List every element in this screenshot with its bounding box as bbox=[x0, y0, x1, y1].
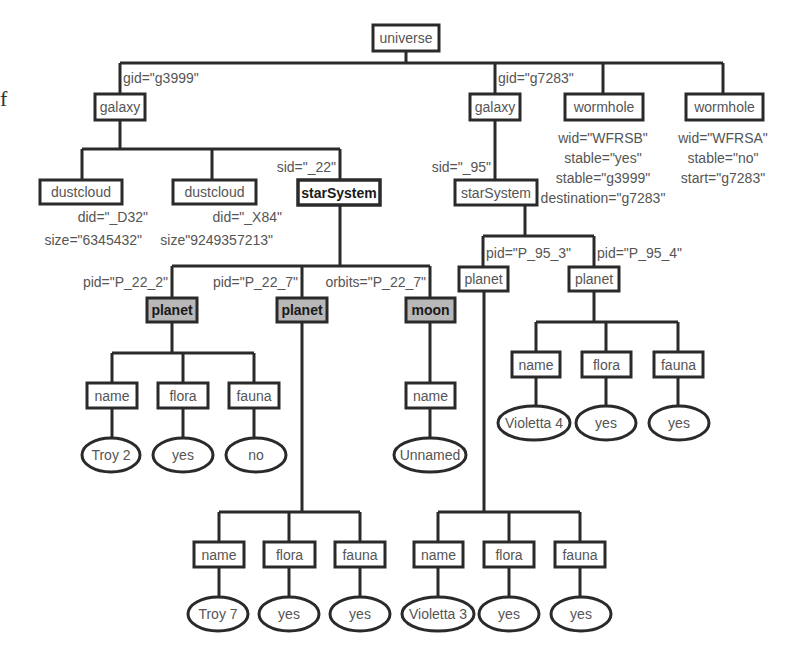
attribute-starSystem1: sid="_22" bbox=[277, 159, 336, 175]
attribute-dustcloud2: did="_X84" bbox=[213, 209, 283, 225]
node-label: Troy 2 bbox=[91, 447, 130, 463]
attribute-wormhole1: stable="yes" bbox=[564, 150, 641, 166]
node-moon: moon bbox=[406, 298, 455, 322]
node-dustcloud1: dustcloud bbox=[40, 180, 122, 204]
node-p4_flora: flora bbox=[582, 352, 631, 377]
tree-nodes: universegalaxygalaxywormholewormholedust… bbox=[40, 25, 763, 631]
node-p2_name: name bbox=[194, 542, 244, 567]
node-p1_name_v: Troy 2 bbox=[82, 438, 140, 472]
node-starSystem1: starSystem bbox=[298, 180, 380, 205]
node-label: yes bbox=[278, 606, 300, 622]
node-label: flora bbox=[495, 547, 522, 563]
node-label: wormhole bbox=[693, 99, 755, 115]
attribute-galaxy2: gid="g7283" bbox=[498, 70, 574, 86]
node-wormhole1: wormhole bbox=[565, 94, 643, 120]
attribute-galaxy1: gid="g3999" bbox=[123, 70, 199, 86]
xml-tree-diagram: universegalaxygalaxywormholewormholedust… bbox=[0, 0, 798, 664]
node-label: no bbox=[248, 447, 264, 463]
node-label: Troy 7 bbox=[198, 606, 237, 622]
node-galaxy1: galaxy bbox=[95, 94, 145, 120]
node-p3_flora: flora bbox=[484, 542, 534, 567]
node-universe: universe bbox=[373, 25, 439, 51]
attribute-moon: orbits="P_22_7" bbox=[325, 274, 426, 290]
node-m_name_v: Unnamed bbox=[394, 438, 466, 472]
node-p2_fauna: fauna bbox=[335, 542, 385, 567]
node-p4_name: name bbox=[512, 352, 560, 377]
node-planet2: planet bbox=[277, 298, 327, 322]
node-p3_fauna_v: yes bbox=[551, 597, 611, 631]
node-label: flora bbox=[169, 388, 196, 404]
node-label: galaxy bbox=[100, 99, 140, 115]
node-label: flora bbox=[276, 547, 303, 563]
attribute-dustcloud1: did="_D32" bbox=[78, 209, 148, 225]
node-label: wormhole bbox=[573, 99, 635, 115]
node-label: starSystem bbox=[461, 185, 531, 201]
node-p2_flora_v: yes bbox=[259, 597, 319, 631]
attribute-starSystem2: sid="_95" bbox=[432, 159, 491, 175]
attribute-planet1: pid="P_22_2" bbox=[83, 274, 168, 290]
node-label: name bbox=[413, 388, 448, 404]
node-p4_fauna_v: yes bbox=[649, 406, 709, 440]
attribute-wormhole2: wid="WFRSA" bbox=[677, 130, 768, 146]
attribute-wormhole1: stable="g3999" bbox=[556, 170, 650, 186]
node-label: starSystem bbox=[301, 185, 377, 201]
node-label: yes bbox=[668, 415, 690, 431]
node-label: yes bbox=[172, 447, 194, 463]
node-label: yes bbox=[595, 415, 617, 431]
node-label: moon bbox=[411, 302, 449, 318]
node-label: name bbox=[518, 357, 553, 373]
node-p3_fauna: fauna bbox=[555, 542, 605, 567]
node-label: planet bbox=[575, 271, 613, 287]
node-label: name bbox=[201, 547, 236, 563]
node-dustcloud2: dustcloud bbox=[173, 180, 256, 204]
attribute-planet2: pid="P_22_7" bbox=[213, 274, 298, 290]
attribute-planet3: pid="P_95_3" bbox=[486, 245, 571, 261]
attribute-dustcloud1: size="6345432" bbox=[44, 232, 142, 248]
node-label: planet bbox=[281, 302, 323, 318]
node-galaxy2: galaxy bbox=[470, 94, 520, 120]
attribute-wormhole1: destination="g7283" bbox=[541, 190, 666, 206]
node-label: planet bbox=[151, 302, 193, 318]
node-label: flora bbox=[593, 357, 620, 373]
node-label: universe bbox=[380, 30, 433, 46]
node-label: Violetta 4 bbox=[505, 415, 563, 431]
node-label: fauna bbox=[236, 388, 271, 404]
node-label: yes bbox=[349, 606, 371, 622]
attribute-wormhole2: stable="no" bbox=[687, 150, 758, 166]
node-planet1: planet bbox=[147, 298, 197, 322]
node-label: yes bbox=[570, 606, 592, 622]
node-p4_name_v: Violetta 4 bbox=[498, 406, 570, 440]
node-p1_fauna: fauna bbox=[229, 383, 279, 408]
attribute-planet4: pid="P_95_4" bbox=[597, 245, 682, 261]
node-label: Violetta 3 bbox=[409, 606, 467, 622]
node-p1_flora_v: yes bbox=[153, 438, 213, 472]
node-m_name: name bbox=[406, 383, 455, 408]
node-planet4: planet bbox=[569, 267, 619, 291]
node-wormhole2: wormhole bbox=[686, 94, 763, 120]
node-label: yes bbox=[498, 606, 520, 622]
node-label: name bbox=[421, 547, 456, 563]
node-p1_fauna_v: no bbox=[226, 438, 286, 472]
node-p1_name: name bbox=[87, 383, 137, 408]
node-p2_flora: flora bbox=[264, 542, 315, 567]
attribute-dustcloud2: size"9249357213" bbox=[160, 232, 273, 248]
node-label: name bbox=[94, 388, 129, 404]
attribute-labels: gid="g3999"gid="g7283"wid="WFRSB"stable=… bbox=[44, 70, 767, 290]
node-label: dustcloud bbox=[51, 184, 111, 200]
node-label: Unnamed bbox=[400, 447, 461, 463]
node-label: planet bbox=[464, 271, 502, 287]
node-p4_fauna: fauna bbox=[654, 352, 703, 377]
node-label: fauna bbox=[562, 547, 597, 563]
node-label: fauna bbox=[342, 547, 377, 563]
node-label: galaxy bbox=[475, 99, 515, 115]
node-label: fauna bbox=[661, 357, 696, 373]
node-starSystem2: starSystem bbox=[455, 180, 537, 205]
node-planet3: planet bbox=[459, 267, 508, 291]
node-p2_name_v: Troy 7 bbox=[188, 597, 248, 631]
node-p4_flora_v: yes bbox=[576, 406, 636, 440]
node-p3_name_v: Violetta 3 bbox=[402, 597, 474, 631]
attribute-wormhole1: wid="WFRSB" bbox=[557, 130, 648, 146]
attribute-wormhole2: start="g7283" bbox=[681, 170, 765, 186]
node-p3_flora_v: yes bbox=[479, 597, 539, 631]
node-p1_flora: flora bbox=[158, 383, 208, 408]
